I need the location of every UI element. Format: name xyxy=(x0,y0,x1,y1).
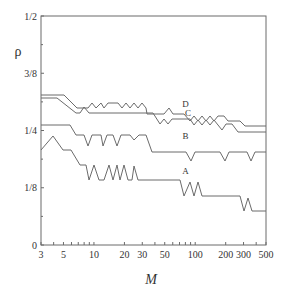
x-tick-label: 300 xyxy=(236,249,251,260)
y-tick-label: 3/8 xyxy=(24,68,37,79)
y-tick-label: 1/8 xyxy=(24,182,37,193)
y-axis-title: ρ xyxy=(15,44,22,59)
x-tick-label: 5 xyxy=(61,249,66,260)
y-tick-label: 1/2 xyxy=(24,11,37,22)
curve-label-b: B xyxy=(182,131,188,141)
curve-d xyxy=(41,95,266,126)
x-tick-label: 500 xyxy=(259,249,274,260)
chart: 01/81/43/81/2 3510203050100200300500 DCB… xyxy=(0,0,285,300)
x-tick-label: 10 xyxy=(89,249,99,260)
x-tick-label: 50 xyxy=(160,249,170,260)
y-tick-label: 0 xyxy=(32,240,37,251)
curve-label-a: A xyxy=(182,166,189,176)
curve-c xyxy=(41,98,266,132)
plot-frame xyxy=(41,16,266,245)
x-tick-label: 100 xyxy=(188,249,203,260)
x-tick-label: 3 xyxy=(39,249,44,260)
curve-labels: DCBA xyxy=(182,99,191,176)
x-tick-label: 20 xyxy=(119,249,129,260)
curves xyxy=(41,95,266,211)
x-tick-label: 200 xyxy=(218,249,233,260)
plot-border xyxy=(41,16,266,245)
y-tick-label: 1/4 xyxy=(24,125,37,136)
curve-a xyxy=(41,136,266,211)
x-tick-label: 30 xyxy=(137,249,147,260)
x-axis-title: M xyxy=(144,272,158,287)
curve-label-c: C xyxy=(185,108,191,118)
